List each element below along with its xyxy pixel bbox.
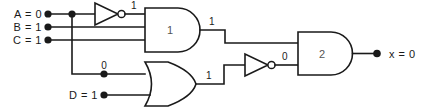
junction-dot-a-branch [68,10,75,17]
input-label-d: D = 1 [69,89,98,101]
signal-label-or1-input-a: 0 [101,60,107,71]
inverter-1-body[interactable] [95,3,118,25]
and-gate-2-label: 2 [319,48,325,60]
inverter-2-bubble [268,61,275,68]
and-gate-1-label: 1 [167,24,173,36]
inverter-2-body[interactable] [245,54,268,76]
or-gate-1-body[interactable] [145,62,196,106]
input-label-c: C = 1 [13,34,42,46]
circuit-canvas: A = 0 B = 1 C = 1 D = 1 1 1 1 0 1 [0,0,425,112]
wire-or1-to-inv2 [196,65,245,84]
wire-and1-to-and2 [200,30,298,43]
signal-label-or1-out: 1 [206,70,212,81]
output-label-x: x = 0 [389,48,416,60]
and-gate-2-body[interactable] [298,32,352,75]
signal-label-inv1-out: 1 [131,0,137,11]
logic-circuit-diagram: A = 0 B = 1 C = 1 D = 1 1 1 1 0 1 [0,0,425,112]
wire-a-branch-to-or1 [72,14,145,74]
input-label-b: B = 1 [14,21,43,33]
signal-label-and1-out: 1 [209,16,215,27]
output-terminal-x[interactable] [373,50,381,58]
input-label-a: A = 0 [14,8,42,20]
inverter-1-bubble [118,10,125,17]
signal-label-inv2-out: 0 [282,51,288,62]
junction-dot-or1-input [100,70,107,77]
